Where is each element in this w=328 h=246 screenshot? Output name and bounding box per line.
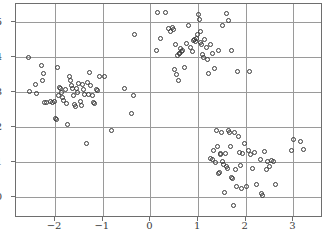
data-point bbox=[155, 10, 160, 15]
data-point bbox=[229, 48, 234, 53]
data-point bbox=[254, 182, 259, 187]
data-point bbox=[236, 134, 241, 139]
data-point bbox=[68, 78, 73, 83]
data-point bbox=[198, 29, 203, 34]
data-point bbox=[231, 203, 236, 208]
data-point bbox=[41, 71, 46, 76]
data-point bbox=[95, 88, 100, 93]
data-point bbox=[197, 17, 202, 22]
data-point bbox=[65, 122, 70, 127]
x-tick-label: 1 bbox=[194, 220, 200, 231]
data-point bbox=[180, 48, 185, 53]
data-point bbox=[271, 159, 276, 164]
data-point bbox=[122, 86, 127, 91]
data-point bbox=[79, 103, 84, 108]
x-tick-label: −2 bbox=[47, 220, 62, 231]
data-point bbox=[64, 101, 69, 106]
data-point bbox=[240, 151, 245, 156]
data-point bbox=[182, 65, 187, 70]
data-point bbox=[54, 117, 59, 122]
y-tick-label: 4 bbox=[0, 50, 2, 61]
data-point bbox=[132, 32, 137, 37]
data-point bbox=[26, 55, 31, 60]
y-tick-label: 5 bbox=[0, 15, 2, 26]
data-point bbox=[212, 66, 217, 71]
data-point bbox=[260, 193, 265, 198]
data-point bbox=[84, 141, 89, 146]
data-point bbox=[230, 176, 235, 181]
plot-area bbox=[15, 3, 322, 217]
y-tickmark bbox=[11, 196, 15, 197]
x-tick-label: 2 bbox=[242, 220, 248, 231]
data-point bbox=[226, 18, 231, 23]
data-point bbox=[88, 83, 93, 88]
data-points-layer bbox=[16, 4, 321, 216]
data-point bbox=[222, 190, 227, 195]
data-point bbox=[258, 157, 263, 162]
data-point bbox=[291, 137, 296, 142]
y-tickmark bbox=[11, 126, 15, 127]
y-tickmark bbox=[11, 91, 15, 92]
data-point bbox=[63, 87, 68, 92]
data-point bbox=[242, 141, 247, 146]
data-point bbox=[186, 23, 191, 28]
data-point bbox=[171, 27, 176, 32]
data-point bbox=[233, 167, 238, 172]
data-point bbox=[220, 23, 225, 28]
data-point bbox=[262, 149, 267, 154]
data-point bbox=[215, 144, 220, 149]
data-point bbox=[92, 101, 97, 106]
data-point bbox=[224, 11, 229, 16]
data-point bbox=[244, 184, 249, 189]
x-tick-label: 0 bbox=[146, 220, 152, 231]
data-point bbox=[216, 48, 221, 53]
data-point bbox=[247, 69, 252, 74]
data-point bbox=[219, 130, 224, 135]
data-point bbox=[238, 163, 243, 168]
data-point bbox=[87, 70, 92, 75]
data-point bbox=[90, 93, 95, 98]
data-point bbox=[210, 51, 215, 56]
data-point bbox=[173, 42, 178, 47]
data-point bbox=[208, 42, 213, 47]
data-point bbox=[129, 111, 134, 116]
y-tick-label: 1 bbox=[0, 155, 2, 166]
data-point bbox=[27, 89, 32, 94]
data-point bbox=[39, 63, 44, 68]
data-point bbox=[235, 69, 240, 74]
y-tickmark bbox=[11, 21, 15, 22]
x-tick-label: 3 bbox=[289, 220, 295, 231]
data-point bbox=[234, 184, 239, 189]
y-tickmark bbox=[11, 161, 15, 162]
data-point bbox=[102, 74, 107, 79]
data-point bbox=[225, 166, 230, 171]
data-point bbox=[301, 147, 306, 152]
data-point bbox=[273, 182, 278, 187]
data-point bbox=[55, 65, 60, 70]
data-point bbox=[252, 150, 257, 155]
data-point bbox=[158, 36, 163, 41]
data-point bbox=[206, 71, 211, 76]
data-point bbox=[298, 139, 303, 144]
data-point bbox=[213, 160, 218, 165]
data-point bbox=[214, 128, 219, 133]
data-point bbox=[223, 151, 228, 156]
data-point bbox=[202, 37, 207, 42]
data-point bbox=[289, 148, 294, 153]
data-point bbox=[228, 144, 233, 149]
data-point bbox=[217, 170, 222, 175]
data-point bbox=[163, 10, 168, 15]
data-point bbox=[176, 78, 181, 83]
data-point bbox=[34, 91, 39, 96]
data-point bbox=[52, 99, 57, 104]
scatter-plot-figure: 012345−2−10123 bbox=[0, 0, 328, 246]
data-point bbox=[33, 82, 38, 87]
data-point bbox=[131, 93, 136, 98]
y-tick-label: 3 bbox=[0, 85, 2, 96]
data-point bbox=[267, 164, 272, 169]
data-point bbox=[250, 166, 255, 171]
data-point bbox=[40, 78, 45, 83]
data-point bbox=[190, 49, 195, 54]
data-point bbox=[205, 57, 210, 62]
y-tick-label: 2 bbox=[0, 120, 2, 131]
